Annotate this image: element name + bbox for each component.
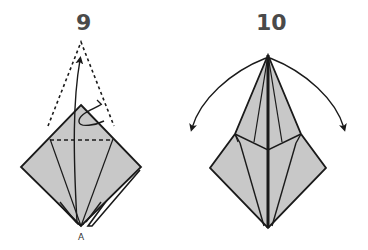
step-10-figure — [192, 55, 344, 228]
step-9-figure — [21, 42, 141, 226]
origami-diagram — [0, 0, 368, 250]
paper-diamond — [21, 105, 141, 226]
